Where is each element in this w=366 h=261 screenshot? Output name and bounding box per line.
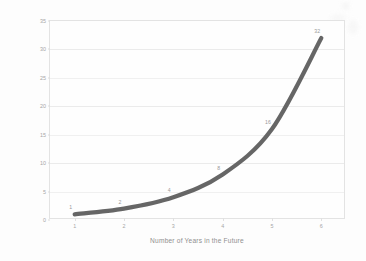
x-tick-label: 3 bbox=[172, 223, 175, 229]
y-tick-label: 20 bbox=[40, 103, 46, 109]
y-tick-label: 30 bbox=[40, 46, 46, 52]
scan-artifact bbox=[348, 20, 358, 34]
chart-figure: Increase in our Current Technological Ab… bbox=[0, 0, 366, 261]
x-tick-label: 5 bbox=[271, 223, 274, 229]
x-axis-title: Number of Years in the Future bbox=[49, 237, 345, 244]
scan-artifact bbox=[342, 3, 349, 9]
y-tick-label: 5 bbox=[43, 189, 46, 195]
y-tick-label: 0 bbox=[43, 217, 46, 223]
series-path-technological-ability bbox=[75, 38, 322, 214]
y-axis-title: Increase in our Current Technological Ab… bbox=[10, 0, 22, 32]
y-tick-label: 15 bbox=[40, 132, 46, 138]
x-tick-label: 6 bbox=[320, 223, 323, 229]
data-point-label: 16 bbox=[265, 119, 271, 125]
x-tick-label: 1 bbox=[73, 223, 76, 229]
data-point-label: 2 bbox=[118, 199, 121, 205]
y-tick-label: 35 bbox=[40, 18, 46, 24]
data-point-label: 4 bbox=[168, 187, 171, 193]
y-tick-label: 25 bbox=[40, 75, 46, 81]
y-tick-label: 10 bbox=[40, 160, 46, 166]
data-point-label: 1 bbox=[69, 204, 72, 210]
data-point-label: 8 bbox=[217, 165, 220, 171]
x-tick-label: 4 bbox=[221, 223, 224, 229]
series-line-chart bbox=[50, 21, 346, 220]
x-tick-label: 2 bbox=[123, 223, 126, 229]
data-point-label: 32 bbox=[314, 28, 320, 34]
plot-area: 05101520253035 123456 12481632 bbox=[49, 20, 345, 219]
